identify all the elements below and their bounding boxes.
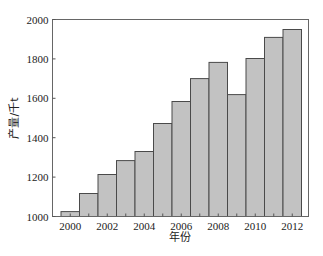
- y-tick-label: 1800: [27, 53, 50, 65]
- x-tick-label: 2002: [96, 220, 118, 232]
- y-tick-label: 1000: [27, 211, 50, 223]
- x-tick-label: 2004: [133, 220, 156, 232]
- bar-2009: [228, 95, 247, 217]
- x-tick-label: 2006: [170, 220, 193, 232]
- y-tick-label: 1600: [27, 92, 50, 104]
- x-tick-label: 2010: [244, 220, 267, 232]
- x-tick-label: 2012: [281, 220, 303, 232]
- y-axis: 100012001400160018002000: [27, 14, 56, 223]
- y-tick-label: 1200: [27, 171, 50, 183]
- bar-2005: [154, 124, 173, 217]
- bar-2006: [172, 102, 191, 217]
- y-axis-title: 产量/千t: [7, 97, 21, 139]
- bar-2002: [98, 175, 117, 217]
- bar-2008: [209, 62, 228, 216]
- bar-2011: [265, 37, 284, 216]
- x-tick-label: 2008: [207, 220, 230, 232]
- bars-group: [61, 30, 302, 217]
- y-tick-label: 1400: [27, 132, 50, 144]
- y-tick-label: 2000: [27, 14, 50, 26]
- bar-2004: [135, 152, 154, 217]
- bar-chart: 100012001400160018002000 200020022004200…: [0, 0, 323, 256]
- bar-2001: [80, 194, 99, 217]
- bar-2010: [246, 59, 265, 217]
- bar-2007: [191, 79, 210, 217]
- bar-2003: [117, 161, 136, 217]
- bar-2012: [283, 30, 302, 217]
- x-axis-title: 年份: [169, 230, 191, 244]
- x-tick-label: 2000: [59, 220, 82, 232]
